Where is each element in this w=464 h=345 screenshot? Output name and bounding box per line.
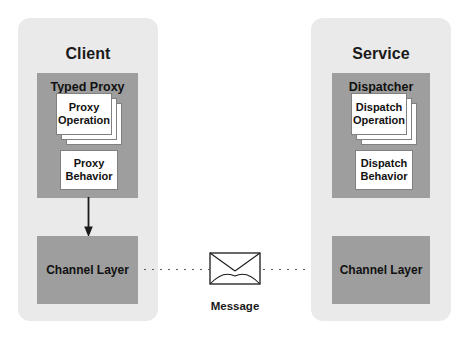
service-channel-layer-label: Channel Layer: [332, 263, 430, 277]
envelope-icon: [209, 252, 261, 285]
dispatch-operation-card-front: Dispatch Operation: [351, 93, 407, 135]
client-channel-layer-box: Channel Layer: [37, 236, 138, 304]
proxy-operation-card-stack: Proxy Operation: [56, 93, 122, 145]
dispatch-operation-card-stack: Dispatch Operation: [351, 93, 417, 145]
dispatch-behavior-line2: Behavior: [360, 170, 407, 182]
proxy-operation-card-front: Proxy Operation: [56, 93, 112, 135]
proxy-operation-line1: Proxy: [69, 101, 100, 113]
client-panel-title: Client: [18, 45, 158, 63]
proxy-behavior-line2: Behavior: [65, 170, 112, 182]
proxy-behavior-line1: Proxy: [74, 157, 105, 169]
dispatch-operation-card-label: Dispatch Operation: [352, 101, 406, 127]
proxy-operation-line2: Operation: [58, 114, 110, 126]
typed-proxy-title: Typed Proxy: [37, 80, 138, 94]
client-to-message-dotted-line: [141, 268, 209, 271]
dispatch-behavior-label: Dispatch Behavior: [356, 157, 412, 183]
dispatch-operation-line1: Dispatch: [356, 101, 402, 113]
proxy-operation-card-label: Proxy Operation: [57, 101, 111, 127]
dispatch-operation-line2: Operation: [353, 114, 405, 126]
dispatch-behavior-line1: Dispatch: [361, 157, 407, 169]
client-channel-layer-label: Channel Layer: [37, 263, 138, 277]
service-panel-title: Service: [311, 45, 451, 63]
proxy-behavior-label: Proxy Behavior: [61, 157, 117, 183]
down-arrow-icon: [84, 197, 93, 237]
dispatch-behavior-box: Dispatch Behavior: [355, 150, 413, 190]
service-channel-layer-box: Channel Layer: [332, 236, 430, 304]
architecture-diagram: Client Typed Proxy Proxy Operation Proxy…: [0, 0, 464, 345]
message-label: Message: [185, 300, 285, 312]
proxy-behavior-box: Proxy Behavior: [60, 150, 118, 190]
dispatcher-title: Dispatcher: [332, 80, 430, 94]
